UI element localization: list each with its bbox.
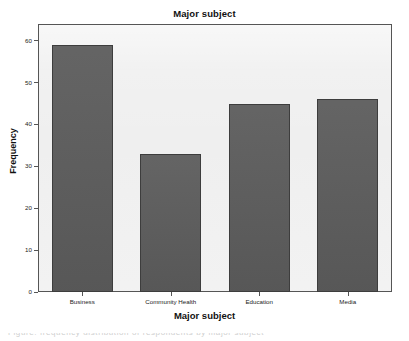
x-axis-tick-label: Business (70, 298, 95, 305)
y-axis-tick-label: 10 (25, 247, 34, 253)
x-axis-tick-mark (348, 292, 349, 296)
chart-title: Major subject (0, 8, 409, 19)
x-axis-tick-label: Community Health (145, 298, 196, 305)
y-axis-tick-label: 30 (25, 163, 34, 169)
y-axis-tick-label: 50 (25, 80, 34, 86)
x-axis-tick-label: Education (245, 298, 273, 305)
y-axis-tick-mark (34, 124, 38, 125)
y-axis-tick-label: 40 (25, 121, 34, 127)
x-axis-tick-label: Media (339, 298, 356, 305)
x-axis-tick-mark (82, 292, 83, 296)
x-axis-tick: Media (304, 292, 393, 312)
chart-figure: Major subject Frequency 0102030405060 Bu… (0, 0, 409, 341)
bar-slot (127, 24, 216, 292)
y-axis-tick-mark (34, 250, 38, 251)
y-axis-tick-mark (34, 166, 38, 167)
bar[interactable] (229, 104, 290, 292)
x-axis-tick-mark (259, 292, 260, 296)
bar[interactable] (140, 154, 201, 292)
bar-slot (215, 24, 304, 292)
bar[interactable] (52, 45, 113, 292)
x-axis-tick: Community Health (127, 292, 216, 312)
clipped-caption: Figure: frequency distribution of respon… (0, 333, 409, 341)
y-axis-tick-mark (34, 208, 38, 209)
y-axis: Frequency 0102030405060 (0, 24, 38, 292)
bar-series (38, 24, 392, 292)
bar-slot (304, 24, 393, 292)
x-axis-tick: Business (38, 292, 127, 312)
x-axis-tick-mark (171, 292, 172, 296)
x-axis: BusinessCommunity HealthEducationMedia (38, 292, 392, 312)
y-axis-tick-label: 60 (25, 38, 34, 44)
bar-slot (38, 24, 127, 292)
bar[interactable] (317, 99, 378, 292)
x-axis-tick: Education (215, 292, 304, 312)
y-axis-label: Frequency (8, 91, 18, 211)
y-axis-tick-mark (34, 40, 38, 41)
y-axis-tick-label: 20 (25, 205, 34, 211)
clipped-caption-text: Figure: frequency distribution of respon… (0, 333, 409, 337)
y-axis-tick-mark (34, 82, 38, 83)
x-axis-label: Major subject (0, 310, 409, 321)
